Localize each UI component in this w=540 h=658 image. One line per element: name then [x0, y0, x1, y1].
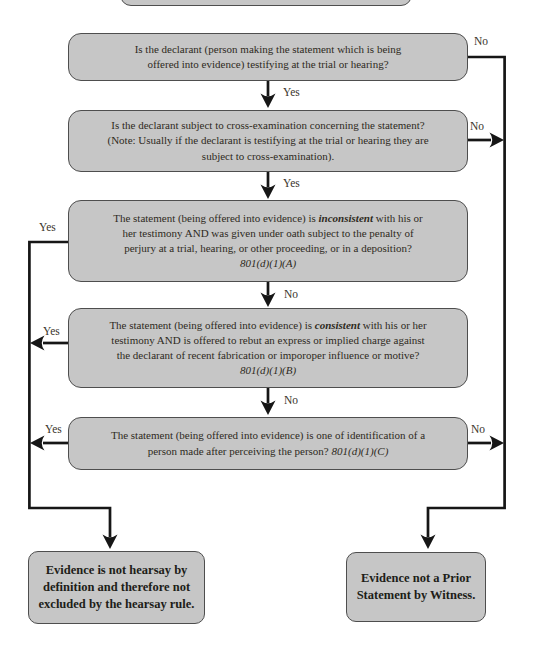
end-right-line2: Statement by Witness. [357, 587, 476, 604]
box-q5-identification: The statement (being offered into eviden… [68, 417, 468, 470]
q2-line2: (Note: Usually if the declarant is testi… [107, 133, 428, 148]
q1-line2: offered into evidence) testifying at the… [147, 57, 388, 72]
end-left-line3: excluded by the hearsay rule. [39, 596, 195, 613]
label-no-q2: No [470, 120, 484, 132]
label-yes-q2: Yes [283, 177, 300, 189]
q5-line2: person made after perceiving the person?… [148, 444, 389, 459]
q3-line1-post: with his or [373, 212, 423, 224]
q5-line2-pre: person made after perceiving the person? [148, 445, 332, 457]
end-left-line2: definition and therefore not [43, 579, 190, 596]
q2-line3: subject to cross-examination). [202, 149, 334, 164]
q3-line1-pre: The statement (being offered into eviden… [113, 212, 318, 224]
end-right-line1: Evidence not a Prior [361, 570, 471, 587]
q3-line2: her testimony AND was given under oath s… [122, 226, 413, 241]
box-q2-cross-examination: Is the declarant subject to cross-examin… [68, 110, 468, 172]
q4-line2: testimony AND is offered to rebut an exp… [111, 333, 424, 348]
q4-citation: 801(d)(1)(B) [240, 363, 296, 378]
q5-citation: 801(d)(1)(C) [332, 445, 389, 457]
q4-line3: the declarant of recent fabrication or i… [117, 348, 420, 363]
label-no-q4: No [284, 394, 298, 406]
q3-citation: 801(d)(1)(A) [240, 256, 296, 271]
box-q1-declarant-testifying: Is the declarant (person making the stat… [68, 33, 468, 81]
end-left-line1: Evidence is not hearsay by [46, 562, 188, 579]
label-no-q5: No [471, 423, 485, 435]
q1-line1: Is the declarant (person making the stat… [135, 42, 402, 57]
label-no-q3: No [284, 288, 298, 300]
q4-emphasis-consistent: consistent [315, 319, 360, 331]
connector-yes-rail-left [29, 242, 110, 537]
label-yes-q1: Yes [283, 86, 300, 98]
box-q3-inconsistent-statement: The statement (being offered into eviden… [68, 200, 468, 282]
q4-line1: The statement (being offered into eviden… [109, 318, 426, 333]
box-q4-consistent-statement: The statement (being offered into eviden… [68, 308, 468, 388]
arrowhead-right-q2-no [490, 133, 505, 148]
q2-line1: Is the declarant subject to cross-examin… [111, 118, 424, 133]
label-yes-q5: Yes [45, 423, 62, 435]
q4-line1-pre: The statement (being offered into eviden… [109, 319, 314, 331]
q3-emphasis-inconsistent: inconsistent [319, 212, 373, 224]
arrowhead-left-q5-yes [30, 436, 45, 451]
q3-line1: The statement (being offered into eviden… [113, 211, 423, 226]
q5-line1: The statement (being offered into eviden… [111, 428, 425, 443]
label-yes-q4: Yes [43, 325, 60, 337]
label-no-q1: No [474, 35, 488, 47]
arrowhead-left-q4-yes [30, 336, 45, 351]
arrowhead-right-q5-no [490, 436, 505, 451]
label-yes-q3: Yes [39, 221, 56, 233]
box-end-not-hearsay: Evidence is not hearsay by definition an… [28, 551, 205, 624]
box-end-not-prior-statement: Evidence not a Prior Statement by Witnes… [346, 552, 486, 622]
flowchart-canvas: Is the declarant (person making the stat… [0, 0, 540, 658]
q3-line3: perjury at a trial, hearing, or other pr… [124, 241, 412, 256]
q4-line1-post: with his or her [360, 319, 427, 331]
box-top-partial [120, 0, 412, 6]
